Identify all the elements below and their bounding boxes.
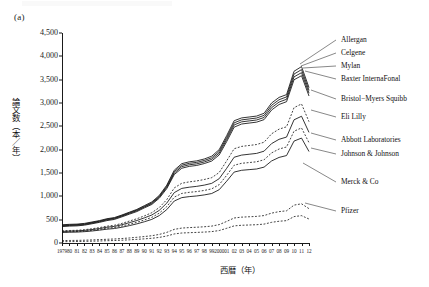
- legend-label: Eli Lilly: [341, 113, 366, 121]
- legend-label: Johnson & Johnson: [341, 150, 399, 158]
- legend-leader-line: [300, 40, 336, 64]
- legend-leader-line: [303, 66, 336, 68]
- legend-leader-line: [303, 163, 336, 182]
- legend-leader-line: [301, 53, 336, 66]
- legend-label: Mylan: [341, 62, 360, 70]
- legend-label: Abbott Laboratories: [341, 136, 401, 144]
- legend-label: Bristol−Myers Squibb: [341, 95, 407, 103]
- legend-label: Celgene: [341, 49, 365, 57]
- legend-leader-line: [305, 71, 336, 79]
- legend-leader-line: [311, 90, 336, 99]
- legend-leader-line: [305, 203, 336, 211]
- series-line: [62, 76, 309, 227]
- series-line: [62, 67, 309, 225]
- legend-leader-line: [311, 148, 336, 154]
- legend-leader-line: [311, 133, 336, 140]
- legend-label: Baxter InternaFonal: [341, 75, 400, 83]
- legend-label: Pfizer: [341, 207, 359, 215]
- series-line: [62, 73, 309, 226]
- series-line: [62, 138, 309, 232]
- series-line: [62, 70, 309, 226]
- legend-leader-line: [311, 110, 336, 117]
- legend-label: Allergan: [341, 36, 367, 44]
- legend-label: Merck & Co: [341, 178, 378, 186]
